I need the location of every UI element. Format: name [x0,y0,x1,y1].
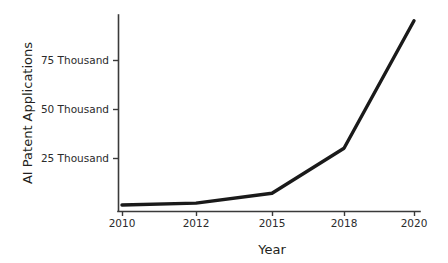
x-tick-label-2010: 2010 [109,217,136,229]
y-tick-label-75-thousand: 75 Thousand [41,54,109,66]
y-tick-label-25-thousand: 25 Thousand [41,152,109,164]
x-tick-label-2015: 2015 [259,217,286,229]
x-tick-label-2020: 2020 [401,217,428,229]
x-tick-label-2012: 2012 [183,217,210,229]
plot-area [118,14,420,211]
y-axis-title: AI Patent Applications [20,42,35,184]
y-tick-label-50-thousand: 50 Thousand [41,103,109,115]
line-chart: 75 Thousand 50 Thousand 25 Thousand 2010… [0,0,448,263]
x-tick-label-2018: 2018 [331,217,358,229]
x-axis-title: Year [257,242,286,257]
chart-container: 75 Thousand 50 Thousand 25 Thousand 2010… [0,0,448,263]
